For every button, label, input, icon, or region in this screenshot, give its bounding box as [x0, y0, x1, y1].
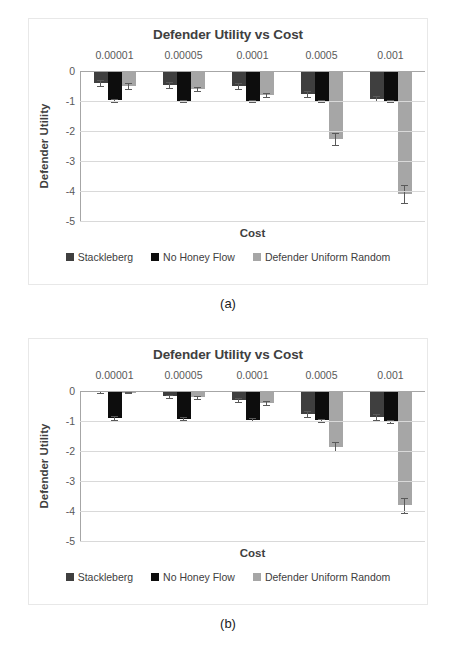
- error-bar-cap: [235, 398, 242, 399]
- legend-swatch-icon: [253, 253, 261, 261]
- bar-group: [218, 71, 287, 221]
- category-label: 0.0005: [287, 49, 356, 65]
- bar-slot: [246, 391, 260, 541]
- error-bar-cap: [304, 417, 311, 418]
- legend-swatch-icon: [151, 573, 159, 581]
- bar-slot: [232, 391, 246, 541]
- error-bar-cap: [401, 185, 408, 186]
- bar-slot: [191, 71, 205, 221]
- bar: [108, 71, 122, 100]
- bar-slot: [329, 71, 343, 221]
- figure-panel-a: Defender Utility vs Cost 0.000010.000050…: [0, 0, 456, 327]
- error-bar-cap: [166, 82, 173, 83]
- bar-group: [80, 71, 149, 221]
- error-bar-cap: [304, 411, 311, 412]
- gridline: [80, 191, 425, 192]
- error-bar-cap: [332, 145, 339, 146]
- bar: [177, 391, 191, 419]
- error-bar-cap: [304, 91, 311, 92]
- bar-slot: [163, 391, 177, 541]
- bars: [80, 391, 149, 541]
- bar: [398, 71, 412, 194]
- bar-slot: [301, 71, 315, 221]
- legend: StacklebergNo Honey FlowDefender Uniform…: [29, 251, 427, 263]
- bar-slot: [260, 391, 274, 541]
- bar: [329, 391, 343, 447]
- figure-panel-b: Defender Utility vs Cost 0.000010.000050…: [0, 320, 456, 647]
- y-tick-label: -1: [66, 415, 75, 427]
- bar: [315, 71, 329, 101]
- bar-group: [287, 71, 356, 221]
- y-tick-label: 0: [69, 385, 75, 397]
- bars: [356, 71, 425, 221]
- bar: [329, 71, 343, 139]
- category-label: 0.0001: [218, 369, 287, 385]
- bar-slot: [94, 391, 108, 541]
- bar-slot: [177, 71, 191, 221]
- y-axis-label: Defender Utility: [35, 71, 51, 221]
- category-labels: 0.000010.000050.00010.00050.001: [80, 49, 425, 65]
- error-bar-cap: [249, 418, 256, 419]
- bar: [370, 71, 384, 99]
- legend-label: Stackleberg: [78, 251, 133, 263]
- gridline: [80, 221, 425, 222]
- bar: [108, 391, 122, 418]
- error-bar-cap: [166, 395, 173, 396]
- error-bar-cap: [263, 97, 270, 98]
- bars: [287, 391, 356, 541]
- legend-label: Defender Uniform Random: [265, 571, 390, 583]
- error-bar-cap: [194, 87, 201, 88]
- category-labels: 0.000010.000050.00010.00050.001: [80, 369, 425, 385]
- gridline: [80, 541, 425, 542]
- legend-swatch-icon: [151, 253, 159, 261]
- legend-item: Defender Uniform Random: [253, 571, 390, 583]
- bar-slot: [94, 71, 108, 221]
- panel-caption: (a): [0, 296, 456, 311]
- error-bar-cap: [97, 80, 104, 81]
- error-bar-cap: [180, 417, 187, 418]
- error-bar-cap: [111, 416, 118, 417]
- error-bar-cap: [304, 97, 311, 98]
- y-tick-label: 0: [69, 65, 75, 77]
- error-bar-cap: [194, 396, 201, 397]
- y-tick-label: -5: [66, 215, 75, 227]
- bar-groups: [80, 71, 425, 221]
- legend-label: No Honey Flow: [163, 251, 235, 263]
- bar-groups: [80, 391, 425, 541]
- bars: [149, 391, 218, 541]
- bar-group: [218, 391, 287, 541]
- error-bar-cap: [97, 86, 104, 87]
- chart-b: Defender Utility vs Cost 0.000010.000050…: [28, 338, 428, 605]
- bar-slot: [315, 391, 329, 541]
- legend-swatch-icon: [66, 573, 74, 581]
- error-bar-cap: [373, 96, 380, 97]
- category-label: 0.001: [356, 49, 425, 65]
- error-bar-cap: [387, 423, 394, 424]
- chart-title: Defender Utility vs Cost: [29, 347, 427, 362]
- bar: [177, 71, 191, 101]
- legend-swatch-icon: [66, 253, 74, 261]
- error-bar-cap: [387, 102, 394, 103]
- bar-group: [149, 71, 218, 221]
- legend-item: Stackleberg: [66, 571, 133, 583]
- zero-line: [80, 391, 425, 392]
- error-bar-cap: [235, 402, 242, 403]
- error-bar-cap: [235, 89, 242, 90]
- bars: [149, 71, 218, 221]
- bars: [218, 71, 287, 221]
- gridline: [80, 481, 425, 482]
- error-bar-cap: [249, 102, 256, 103]
- error-bar-cap: [401, 513, 408, 514]
- bar-slot: [329, 391, 343, 541]
- error-bar-cap: [318, 422, 325, 423]
- y-tick-label: -5: [66, 535, 75, 547]
- legend-item: Defender Uniform Random: [253, 251, 390, 263]
- bar-slot: [108, 71, 122, 221]
- bar-slot: [108, 391, 122, 541]
- x-axis-label: Cost: [80, 547, 425, 559]
- bar-slot: [301, 391, 315, 541]
- legend-label: Stackleberg: [78, 571, 133, 583]
- legend-label: Defender Uniform Random: [265, 251, 390, 263]
- error-bar-cap: [263, 401, 270, 402]
- bar-slot: [246, 71, 260, 221]
